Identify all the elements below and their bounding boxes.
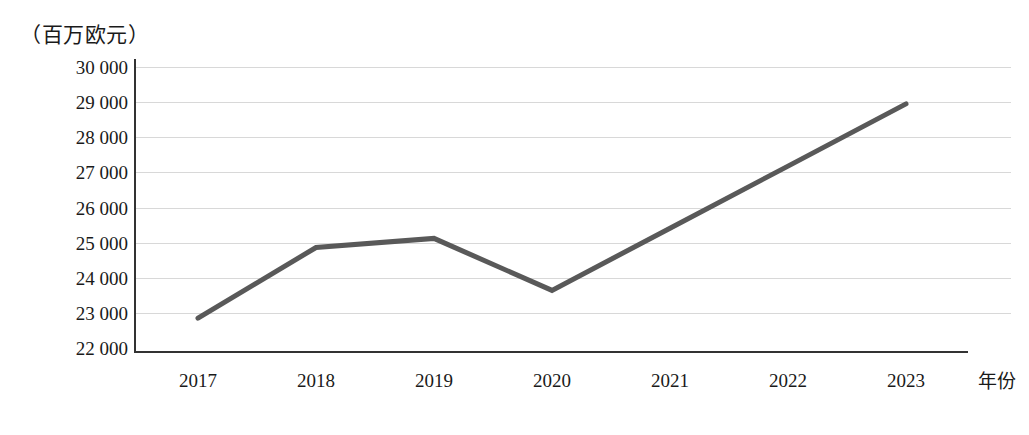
x-axis-tick-labels: 2017201820192020202120222023 (0, 370, 1029, 400)
line-chart: （百万欧元） 30 00029 00028 00027 00026 00025 … (0, 0, 1029, 435)
x-axis-tick-label: 2023 (861, 370, 951, 392)
y-axis-tick-labels: 30 00029 00028 00027 00026 00025 00024 0… (0, 55, 128, 355)
y-axis-tick-label: 29 000 (2, 93, 128, 112)
x-axis-title: 年份 (978, 370, 1016, 392)
y-axis-tick-label: 22 000 (2, 339, 128, 358)
x-axis-tick-label: 2019 (389, 370, 479, 392)
x-axis-tick-label: 2020 (507, 370, 597, 392)
y-axis-unit-caption: （百万欧元） (20, 22, 149, 48)
y-axis-tick-label: 26 000 (2, 198, 128, 217)
x-axis-tick-label: 2018 (271, 370, 361, 392)
x-axis-tick-label: 2017 (153, 370, 243, 392)
x-axis-tick-label: 2022 (743, 370, 833, 392)
y-axis-tick-label: 28 000 (2, 128, 128, 147)
series-line (198, 104, 906, 318)
y-axis-tick-label: 25 000 (2, 233, 128, 252)
y-axis-tick-label: 30 000 (2, 58, 128, 77)
series-line-chart (135, 60, 1013, 355)
x-axis-tick-label: 2021 (625, 370, 715, 392)
plot-area (135, 60, 1013, 355)
y-axis-tick-label: 27 000 (2, 163, 128, 182)
y-axis-tick-label: 23 000 (2, 303, 128, 322)
y-axis-line (134, 59, 136, 353)
x-axis-line (134, 351, 968, 353)
y-axis-tick-label: 24 000 (2, 268, 128, 287)
